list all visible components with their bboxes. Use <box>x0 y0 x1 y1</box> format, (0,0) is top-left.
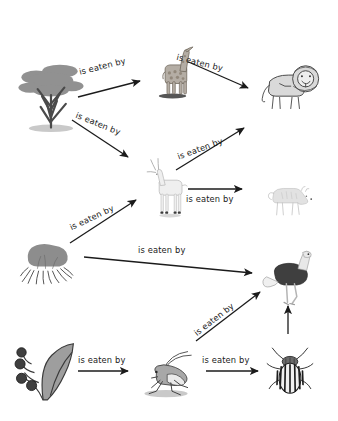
lion-icon <box>252 54 332 116</box>
edge-grasshopper-to-ostrich <box>196 292 260 341</box>
acacia-tree-icon <box>14 56 88 134</box>
giraffe-icon <box>144 28 206 108</box>
ostrich-icon <box>262 238 320 318</box>
grasshopper-icon <box>128 342 204 402</box>
grass-bush-icon <box>12 234 86 292</box>
food-web-diagram: is eaten byis eaten byis eaten byis eate… <box>0 0 338 421</box>
gazelle-icon <box>140 148 200 228</box>
edge-leaf-to-grasshopper-label: is eaten by <box>78 355 126 365</box>
edge-grassbush-to-ostrich-label: is eaten by <box>138 245 186 255</box>
edge-grasshopper-to-beetle-label: is eaten by <box>202 355 250 365</box>
hyena-icon <box>254 176 330 224</box>
leaf-berries-icon <box>10 338 82 410</box>
edge-grassbush-to-ostrich <box>84 257 252 273</box>
beetle-icon <box>264 336 316 408</box>
edge-gazelle-to-hyena-label: is eaten by <box>186 194 234 204</box>
